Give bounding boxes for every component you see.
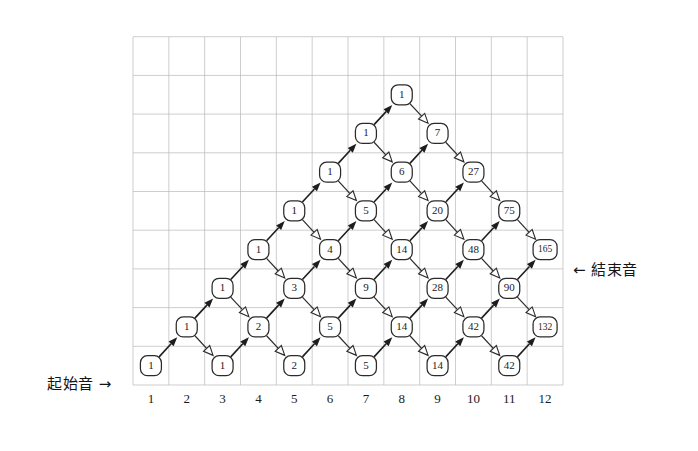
arrow-up-shaft [338,228,350,241]
lattice-node: 1 [355,123,376,143]
lattice-node: 14 [391,240,412,260]
arrow-up-shaft [374,112,386,125]
arrow-up-shaft [482,305,494,318]
axis-tick-label: 3 [219,391,226,406]
node-value: 14 [396,320,408,332]
lattice-node: 1 [140,356,161,376]
node-value: 165 [538,244,553,254]
lattice-node: 14 [427,356,448,376]
arrow-up-shaft [410,150,422,163]
axis-tick-label: 4 [255,391,262,406]
node-value: 14 [396,243,408,255]
node-value: 5 [363,204,369,216]
lattice-node: 9 [355,278,376,298]
arrow-up-shaft [517,344,529,357]
arrow-up-shaft [338,150,350,163]
arrow-up-shaft [374,266,386,279]
node-value: 132 [538,322,553,332]
lattice-node: 75 [499,201,520,221]
axis-tick-label: 1 [148,391,155,406]
arrow-up-shaft [410,305,422,318]
node-value: 90 [504,281,516,293]
lattice-node: 7 [427,123,448,143]
lattice-node: 42 [499,356,520,376]
arrow-up-shaft [410,228,422,241]
node-value: 1 [148,359,154,371]
node-value: 1 [220,281,226,293]
start-note-label: 起始音 → [47,372,112,393]
node-value: 75 [504,204,516,216]
node-value: 1 [256,243,262,255]
arrow-up-shaft [338,305,350,318]
arrow-up-shaft [302,266,314,279]
arrow-up-shaft [446,189,458,202]
lattice-node: 1 [284,201,305,221]
lattice-node: 1 [212,356,233,376]
lattice-node: 42 [463,317,484,337]
arrow-up-shaft [267,305,279,318]
arrow-up-shaft [267,228,279,241]
axis-tick-label: 12 [539,391,552,406]
lattice-node: 1 [391,85,412,105]
lattice-node: 1 [176,317,197,337]
axis-tick-label: 10 [467,391,480,406]
lattice-node: 1 [320,162,341,182]
arrow-up-shaft [195,305,207,318]
arrow-up-shaft [374,189,386,202]
arrow-up-shaft [159,344,171,357]
arrow-up-shaft [231,344,243,357]
node-value: 5 [327,320,333,332]
figure-canvas: 1125144212514421321392890141448165152075… [0,0,698,451]
axis-tick-label: 9 [434,391,441,406]
node-value: 27 [468,165,480,177]
arrow-up-shaft [446,344,458,357]
lattice-node: 1 [248,240,269,260]
lattice-node: 3 [284,278,305,298]
axis-tick-label: 7 [363,391,370,406]
arrow-up-shaft [517,266,529,279]
lattice-node: 5 [320,317,341,337]
lattice-node: 4 [320,240,341,260]
arrow-up-shaft [231,266,243,279]
arrow-up-shaft [446,266,458,279]
node-value: 42 [504,359,515,371]
lattice-node: 14 [391,317,412,337]
node-value: 14 [432,359,444,371]
lattice-node: 2 [248,317,269,337]
lattice-node: 132 [533,317,557,337]
axis-tick-label: 11 [503,391,516,406]
node-value: 48 [468,243,480,255]
node-value: 3 [292,281,298,293]
lattice-node: 5 [355,356,376,376]
axis-tick-label: 8 [399,391,406,406]
node-value: 1 [363,126,369,138]
lattice-node: 28 [427,278,448,298]
arrow-up-shaft [302,189,314,202]
lattice-node: 2 [284,356,305,376]
node-value: 1 [327,165,333,177]
node-value: 7 [435,126,441,138]
lattice-node: 1 [212,278,233,298]
axis-tick-labels: 123456789101112 [148,391,552,406]
node-value: 42 [468,320,479,332]
lattice-node: 6 [391,162,412,182]
axis-tick-label: 2 [184,391,191,406]
arrow-up-shaft [374,344,386,357]
node-value: 9 [363,281,369,293]
end-note-label: ← 結束音 [573,258,638,279]
node-value: 28 [432,281,444,293]
node-value: 1 [292,204,298,216]
node-value: 5 [363,359,369,371]
node-value: 6 [399,165,405,177]
lattice-node: 5 [355,201,376,221]
axis-tick-label: 6 [327,391,334,406]
axis-tick-label: 5 [291,391,298,406]
lattice-node: 90 [499,278,520,298]
node-value: 2 [292,359,298,371]
arrow-up-shaft [482,228,494,241]
arrow-up-shaft [302,344,314,357]
lattice-node: 27 [463,162,484,182]
node-value: 1 [399,88,405,100]
lattice-node: 20 [427,201,448,221]
node-value: 1 [220,359,226,371]
